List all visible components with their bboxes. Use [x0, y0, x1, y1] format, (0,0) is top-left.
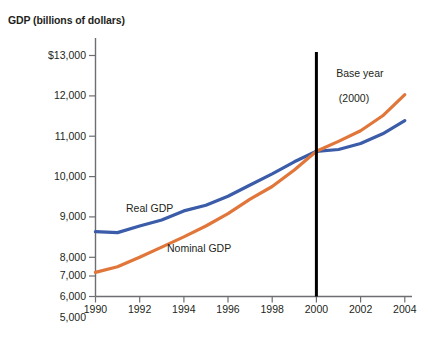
base-year-annotation-line2: (2000): [320, 92, 388, 104]
y-tick-label-8000: 8,000: [22, 251, 86, 263]
y-tick-label-13000: $13,000: [22, 49, 86, 61]
base-year-annotation-line1: Base year: [336, 67, 383, 79]
x-tick-label-2002: 2002: [336, 303, 386, 315]
series-label-real-gdp: Real GDP: [126, 202, 173, 214]
x-tick-label-1992: 1992: [115, 303, 165, 315]
x-tick-label-2000: 2000: [291, 303, 341, 315]
y-tick-label-6000: 6,000: [22, 290, 86, 302]
x-tick-label-1990: 1990: [70, 303, 120, 315]
gdp-line-chart: GDP (billions of dollars): [0, 0, 444, 337]
y-tick-label-9000: 9,000: [22, 210, 86, 222]
x-tick-label-1996: 1996: [203, 303, 253, 315]
x-tick-label-2004: 2004: [380, 303, 430, 315]
series-label-nominal-gdp: Nominal GDP: [167, 242, 231, 254]
series-line-real-gdp: [95, 121, 404, 233]
y-tick-label-11000: 11,000: [22, 130, 86, 142]
x-tick-label-1994: 1994: [159, 303, 209, 315]
y-tick-label-7000: 7,000: [22, 269, 86, 281]
x-tick-label-1998: 1998: [247, 303, 297, 315]
x-axis-ticks: [96, 297, 405, 303]
base-year-annotation: Base year (2000): [320, 55, 388, 129]
y-tick-label-12000: 12,000: [22, 89, 86, 101]
y-tick-label-10000: 10,000: [22, 170, 86, 182]
y-axis-ticks: [89, 56, 96, 297]
